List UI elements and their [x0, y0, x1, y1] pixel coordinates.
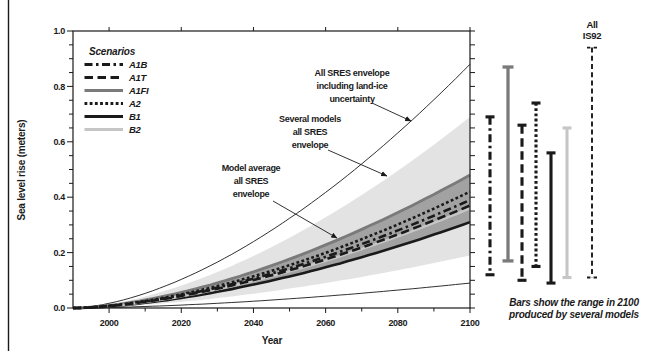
- x-tick-label: 2020: [172, 318, 191, 328]
- legend-label-b1: B1: [129, 111, 141, 122]
- caption-line: produced by several models: [508, 309, 639, 320]
- annotation-arrow-all-sres-envelope-including-land-ice-uncertainty: [372, 103, 411, 121]
- y-tick-label: 1.0: [53, 26, 65, 36]
- is92-bar-label: All: [586, 19, 597, 30]
- range-bar-b1: [547, 153, 556, 283]
- x-tick-label: 2080: [388, 318, 407, 328]
- is92-bar-label: IS92: [583, 30, 601, 41]
- range-bar-a1fi: [503, 67, 514, 261]
- annotation-arrow-several-models-all-sres-envelope: [328, 150, 387, 176]
- annotation-text-several-models-all-sres-envelope: Several models: [279, 114, 341, 124]
- range-bar-b2: [563, 128, 572, 278]
- y-tick-label: 0.2: [53, 248, 65, 258]
- annotation-text-model-average-all-sres-envelope: all SRES: [234, 176, 269, 186]
- x-tick-label: 2060: [316, 318, 335, 328]
- y-tick-label: 0.0: [53, 303, 65, 313]
- sea-level-rise-chart: 2000202020402060208021000.00.20.40.60.81…: [0, 0, 647, 355]
- x-tick-label: 2100: [461, 318, 480, 328]
- y-tick-label: 0.4: [53, 192, 65, 202]
- legend-title: Scenarios: [89, 46, 136, 57]
- range-bar-a1t: [518, 125, 527, 280]
- caption-line: Bars show the range in 2100: [509, 297, 639, 308]
- x-tick-label: 2040: [244, 318, 263, 328]
- annotation-text-all-sres-envelope-including-land-ice-uncertainty: All SRES envelope: [315, 68, 390, 78]
- y-tick-label: 0.8: [53, 82, 65, 92]
- annotation-text-model-average-all-sres-envelope: envelope: [233, 189, 270, 199]
- caption: Bars show the range in 2100produced by s…: [508, 297, 639, 320]
- range-bar-a1b: [486, 117, 495, 275]
- range-bar-a2: [532, 103, 541, 266]
- legend-label-a1t: A1T: [128, 72, 148, 83]
- legend-label-a2: A2: [128, 98, 142, 109]
- range-bar-is92: [587, 48, 597, 278]
- legend-label-a1fi: A1FI: [128, 85, 149, 96]
- y-tick-label: 0.6: [53, 137, 65, 147]
- legend-label-a1b: A1B: [128, 59, 148, 70]
- legend: ScenariosA1BA1TA1FIA2B1B2: [85, 46, 150, 135]
- annotation-text-several-models-all-sres-envelope: all SRES: [293, 127, 328, 137]
- annotation-text-model-average-all-sres-envelope: Model average: [222, 163, 281, 173]
- annotation-text-all-sres-envelope-including-land-ice-uncertainty: including land-ice: [316, 81, 387, 91]
- range-bars-2100: AllIS92: [486, 19, 602, 283]
- x-axis-title: Year: [262, 335, 283, 346]
- x-tick-label: 2000: [100, 318, 119, 328]
- y-axis-title: Sea level rise (meters): [16, 119, 27, 220]
- sea-level-rise-figure: 2000202020402060208021000.00.20.40.60.81…: [0, 0, 647, 355]
- annotation-text-all-sres-envelope-including-land-ice-uncertainty: uncertainty: [329, 94, 375, 104]
- annotation-text-several-models-all-sres-envelope: envelope: [292, 140, 329, 150]
- legend-label-b2: B2: [129, 124, 142, 135]
